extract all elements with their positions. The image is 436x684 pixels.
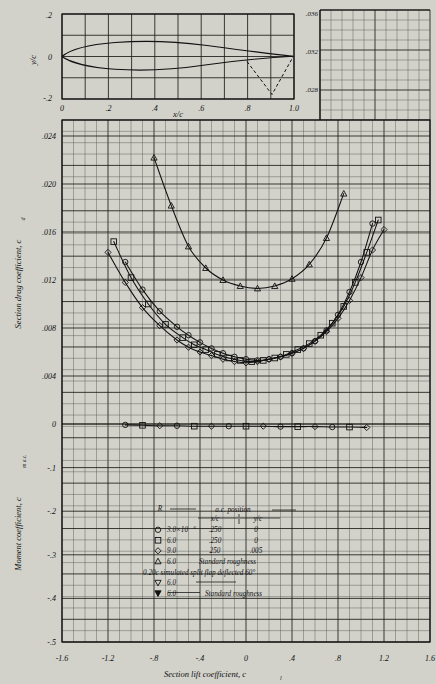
- airfoil-xtick-1: .2: [105, 104, 111, 113]
- legend-flap-line: 0.20c simulated split flap deflected 60°: [143, 569, 255, 577]
- airfoil-xtick-3: .6: [198, 104, 204, 113]
- moment-ylabel-sub: m a.c.: [21, 454, 27, 467]
- drag-ytick-2: .016: [42, 228, 56, 237]
- datapoint-diamond: [155, 548, 161, 554]
- legend-R-header: R: [157, 505, 163, 513]
- legend-row-2-yc: .005: [250, 547, 263, 555]
- drag-ylabel-sub: d: [20, 217, 26, 221]
- main-xtick-group: -1.6-1.2-.8-.40.4.81.21.6: [56, 654, 435, 663]
- airfoil-ytick-2: -.2: [43, 94, 52, 103]
- datapoint-circle: [155, 527, 160, 532]
- legend-row-3-R: 6.0: [167, 558, 176, 566]
- legend-xc-header: x/c: [210, 515, 220, 523]
- legend-flap-row-0-R: 6.0: [167, 579, 176, 587]
- legend-yc-header: y/c: [253, 515, 263, 523]
- drag-ytick-4: .008: [42, 324, 56, 333]
- drag-ytick-1: .020: [42, 180, 56, 189]
- main-xtick-5: .4: [289, 654, 295, 663]
- datapoint-square: [155, 538, 161, 544]
- upper-right-grid: [320, 10, 430, 120]
- airfoil-profile-panel: .2 0 -.2 y/c 0.2.4.6.81.0 x/c .036 .032 …: [0, 0, 436, 120]
- main-xtick-0: -1.6: [56, 654, 69, 663]
- drag-ylabel-text: Section drag coefficient, c: [13, 239, 23, 328]
- airfoil-xtick-4: .8: [245, 104, 251, 113]
- moment-ytick-1: -.2: [47, 507, 56, 516]
- airfoil-upper-surface: [62, 41, 293, 56]
- moment-ylabel-text: Moment coefficient, c: [13, 497, 23, 572]
- ur-ytick-2: .028: [306, 86, 319, 94]
- legend-row-0-R: 3.0×10: [166, 526, 188, 534]
- moment-axis-title: Moment coefficient, c m a.c.: [13, 454, 27, 571]
- legend-row-0-yc: 0: [254, 526, 258, 534]
- ur-ytick-1: .032: [306, 48, 319, 56]
- moment-ytick-group: -.1-.2-.3-.4-.5: [47, 464, 56, 647]
- airfoil-grid: [62, 14, 294, 99]
- legend-ac-header: a.c. position: [215, 506, 251, 514]
- legend-row-1-yc: 0: [254, 537, 258, 545]
- main-xtick-6: .8: [335, 654, 341, 663]
- main-xtick-2: -.8: [150, 654, 159, 663]
- airfoil-ylabel: y/c: [28, 55, 38, 66]
- airfoil-xtick-2: .4: [152, 104, 158, 113]
- drag-ytick-0: .024: [42, 132, 56, 141]
- drag-ytick-5: .004: [42, 372, 56, 381]
- airfoil-ytick-1: 0: [48, 53, 52, 62]
- drag-ytick-group: .024.020.016.012.008.0040: [42, 132, 56, 429]
- moment-ytick-3: -.4: [47, 594, 56, 603]
- legend-rows: 3.0×106.25006.0.25009.0250.0056.0Standar…: [143, 525, 263, 598]
- datapoint-triangle-up: [155, 558, 161, 564]
- legend-flap-row-1-R: 6.0: [167, 590, 176, 598]
- drag-axis-title: Section drag coefficient, c d: [13, 217, 26, 329]
- airfoil-xtick-5: 1.0: [289, 104, 299, 113]
- legend-row-1-R: 6.0: [167, 537, 176, 545]
- drag-ytick-3: .012: [42, 276, 56, 285]
- legend-row-2-R: 9.0: [167, 547, 176, 555]
- curve-series-3: [154, 158, 344, 289]
- legend-row-0-R-exp: 6: [193, 525, 196, 530]
- moment-ytick-2: -.3: [47, 551, 56, 560]
- ur-ytick-0: .036: [306, 10, 319, 18]
- main-xtick-7: 1.2: [379, 654, 389, 663]
- split-flap-dashed: [247, 57, 293, 95]
- airfoil-lower-surface: [62, 56, 293, 70]
- main-xtick-3: -.4: [196, 654, 205, 663]
- legend-row-2-xc: 250: [210, 547, 221, 555]
- main-xtick-4: 0: [244, 654, 248, 663]
- legend-row-3-note: Standard roughness: [199, 558, 256, 566]
- xlabel-text: Section lift coefficient, c: [164, 669, 246, 679]
- xlabel-sub: l: [280, 675, 282, 681]
- curve-series-0: [125, 224, 372, 361]
- airfoil-xtick-0: 0: [60, 104, 64, 113]
- moment-ytick-4: -.5: [47, 638, 56, 647]
- main-xtick-8: 1.6: [425, 654, 435, 663]
- x-axis-title: Section lift coefficient, c l: [164, 669, 282, 681]
- legend-row-0-xc: .250: [209, 526, 222, 534]
- main-plot-panel: .024.020.016.012.008.0040 -.1-.2-.3-.4-.…: [0, 114, 436, 684]
- drag-ytick-6: 0: [52, 420, 56, 429]
- airfoil-ytick-0: .2: [46, 11, 52, 20]
- moment-ytick-0: -.1: [47, 464, 56, 473]
- datapoint-triangle-down-filled: [155, 591, 161, 597]
- legend-row-1-xc: .250: [209, 537, 222, 545]
- legend-flap-row-1-note: Standard roughness: [205, 590, 262, 598]
- figure-root: .2 0 -.2 y/c 0.2.4.6.81.0 x/c .036 .032 …: [0, 0, 436, 684]
- main-xtick-1: -1.2: [102, 654, 115, 663]
